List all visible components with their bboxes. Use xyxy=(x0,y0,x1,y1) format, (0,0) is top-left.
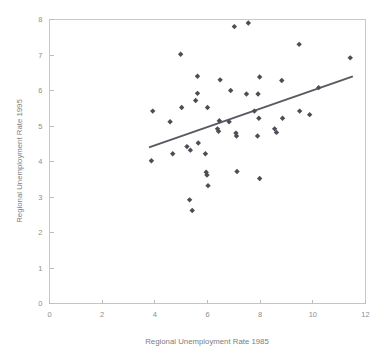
y-tick-label: 0 xyxy=(38,299,42,308)
y-tick-label: 4 xyxy=(38,157,42,166)
scatter-plot-figure: 024681012 012345678 Regional Unemploymen… xyxy=(0,0,387,353)
y-tick-label: 5 xyxy=(38,122,42,131)
x-tick-label: 0 xyxy=(47,310,51,319)
x-tick-label: 2 xyxy=(100,310,104,319)
x-tick-label: 8 xyxy=(258,310,262,319)
x-tick-label: 4 xyxy=(153,310,157,319)
y-tick-label: 8 xyxy=(38,15,42,24)
y-tick-label: 7 xyxy=(38,51,42,60)
x-tick-label: 12 xyxy=(361,310,369,319)
y-axis-title: Regional Unemployment Rate 1995 xyxy=(15,99,24,223)
y-tick-label: 1 xyxy=(38,264,42,273)
y-tick-label: 3 xyxy=(38,193,42,202)
x-tick-label: 10 xyxy=(309,310,317,319)
figure-background xyxy=(0,0,387,353)
x-tick-label: 6 xyxy=(205,310,209,319)
y-axis-tick-labels: 012345678 xyxy=(38,15,42,308)
x-axis-title: Regional Unemployment Rate 1985 xyxy=(145,337,269,346)
y-tick-label: 6 xyxy=(38,86,42,95)
y-tick-label: 2 xyxy=(38,228,42,237)
chart-canvas: 024681012 012345678 Regional Unemploymen… xyxy=(0,0,387,353)
